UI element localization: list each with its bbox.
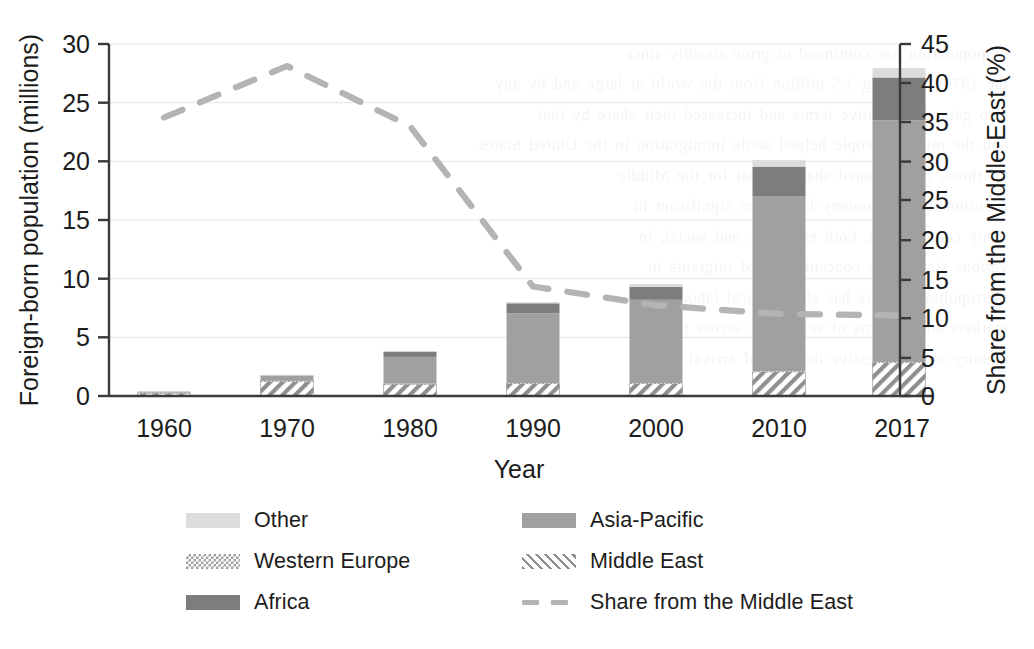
legend-label-africa: Africa xyxy=(254,590,310,615)
y-axis-left-title: Foreign-born population (millions) xyxy=(15,34,43,406)
x-axis-tick-labels: 1960 1970 1980 1990 2000 2010 2017 xyxy=(136,414,930,442)
bar-segment-other xyxy=(507,302,560,303)
bar-segment-middle-east xyxy=(384,384,437,396)
bar-2000 xyxy=(630,284,683,396)
legend-swatch-other-icon xyxy=(186,513,240,528)
bar-1980 xyxy=(384,351,437,396)
legend-label-share-middle-east: Share from the Middle East xyxy=(590,590,853,615)
y-right-tick-40: 40 xyxy=(921,69,949,97)
bar-segment-western-europe xyxy=(261,381,314,382)
bar-segment-middle-east xyxy=(753,372,806,396)
bar-2010 xyxy=(753,160,806,396)
x-tick-2010: 2010 xyxy=(751,414,807,442)
population-stacked-bar-chart: 0 5 10 15 20 25 30 0 5 10 15 20 25 30 35… xyxy=(0,0,1034,500)
bar-1990 xyxy=(507,302,560,396)
bar-segment-africa xyxy=(630,287,683,300)
y-right-tick-15: 15 xyxy=(921,266,949,294)
legend-item-africa[interactable]: Africa xyxy=(186,590,522,615)
bar-segment-other xyxy=(630,284,683,287)
y-axis-right-title: Share from the Middle-East (%) xyxy=(982,45,1010,395)
legend-label-western-europe: Western Europe xyxy=(254,549,410,574)
bar-segment-asia-pacific xyxy=(384,357,437,384)
legend-swatch-asia-pacific-icon xyxy=(522,513,576,528)
legend-label-middle-east: Middle East xyxy=(590,549,703,574)
y-right-tick-45: 45 xyxy=(921,30,949,58)
bar-segment-other xyxy=(753,160,806,167)
legend-item-western-europe[interactable]: Western Europe xyxy=(186,549,522,574)
y-right-tick-10: 10 xyxy=(921,304,949,332)
bar-segment-asia-pacific xyxy=(753,197,806,372)
bar-segment-western-europe xyxy=(753,371,806,372)
legend-label-other: Other xyxy=(254,508,308,533)
chart-figure: ur population has continued to grow stea… xyxy=(0,0,1034,649)
y-right-tick-0: 0 xyxy=(921,382,935,410)
bar-segment-western-europe xyxy=(138,393,191,394)
x-tick-1990: 1990 xyxy=(505,414,561,442)
legend-label-asia-pacific: Asia-Pacific xyxy=(590,508,704,533)
y-axis-left-tick-labels: 0 5 10 15 20 25 30 xyxy=(62,30,90,410)
x-tick-1970: 1970 xyxy=(259,414,315,442)
y-left-tick-15: 15 xyxy=(62,206,90,234)
y-left-tick-0: 0 xyxy=(76,382,90,410)
bar-segment-other xyxy=(384,351,437,352)
bar-segment-africa xyxy=(507,303,560,313)
x-tick-1980: 1980 xyxy=(382,414,438,442)
y-right-tick-5: 5 xyxy=(921,344,935,372)
bar-segment-middle-east xyxy=(507,384,560,396)
y-right-tick-35: 35 xyxy=(921,108,949,136)
chart-legend: Other Asia-Pacific Western Europe Middle… xyxy=(186,500,886,623)
legend-item-share-middle-east[interactable]: Share from the Middle East xyxy=(522,590,886,615)
y-left-tick-20: 20 xyxy=(62,147,90,175)
legend-swatch-africa-icon xyxy=(186,595,240,610)
bar-segment-western-europe xyxy=(384,384,437,385)
bar-segment-asia-pacific xyxy=(630,300,683,383)
bar-segment-asia-pacific xyxy=(507,313,560,383)
bar-segment-western-europe xyxy=(630,383,683,384)
x-tick-2000: 2000 xyxy=(628,414,684,442)
legend-swatch-middle-east-icon xyxy=(522,554,576,569)
x-tick-1960: 1960 xyxy=(136,414,192,442)
bar-segment-western-europe xyxy=(507,383,560,384)
y-left-tick-10: 10 xyxy=(62,265,90,293)
bar-segment-middle-east xyxy=(261,382,314,397)
y-left-tick-25: 25 xyxy=(62,89,90,117)
bar-segment-middle-east xyxy=(630,384,683,396)
legend-item-middle-east[interactable]: Middle East xyxy=(522,549,886,574)
legend-item-other[interactable]: Other xyxy=(186,508,522,533)
x-tick-2017: 2017 xyxy=(874,414,930,442)
y-axis-left-ticks xyxy=(98,44,109,396)
bar-segment-africa xyxy=(384,352,437,357)
y-left-tick-30: 30 xyxy=(62,30,90,58)
legend-swatch-dashed-line-icon xyxy=(522,595,576,610)
y-right-tick-30: 30 xyxy=(921,148,949,176)
y-right-tick-25: 25 xyxy=(921,186,949,214)
bar-segment-asia-pacific xyxy=(261,376,314,381)
y-left-tick-5: 5 xyxy=(76,323,90,351)
bar-segment-asia-pacific xyxy=(138,392,191,393)
bar-segment-africa xyxy=(753,167,806,197)
bar-1970 xyxy=(261,375,314,396)
legend-swatch-western-europe-icon xyxy=(186,554,240,569)
legend-item-asia-pacific[interactable]: Asia-Pacific xyxy=(522,508,886,533)
y-right-tick-20: 20 xyxy=(921,226,949,254)
x-axis-title: Year xyxy=(494,455,545,483)
